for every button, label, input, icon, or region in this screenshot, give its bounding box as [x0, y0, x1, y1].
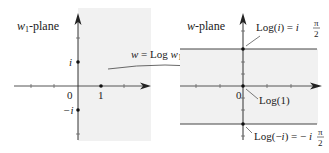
log-minus-i-label: Log(−i) = − i [254, 130, 312, 143]
w1-plane: w1-plane 0 1 i −i [14, 8, 151, 141]
log-i-frac-num: π [314, 18, 319, 28]
log-one-label: Log(1) [259, 94, 290, 107]
left-i-label: i [69, 56, 72, 68]
point-i [76, 60, 80, 64]
log-minus-i-frac-den: 2 [318, 138, 323, 148]
complex-log-diagram: w1-plane 0 1 i −i w = Log w1 [0, 0, 329, 153]
left-origin-label: 0 [67, 89, 73, 101]
left-shaded-region [78, 8, 151, 141]
point-minus-i [76, 108, 80, 112]
point-one [99, 84, 103, 88]
log-i-frac-den: 2 [314, 29, 319, 39]
left-minus-i-label: −i [63, 104, 73, 116]
point-log-one [241, 84, 245, 88]
left-plane-title: w1-plane [17, 19, 59, 34]
right-origin-label: 0 [236, 89, 242, 101]
log-minus-i-frac-num: π [318, 127, 323, 137]
leader-log-i [246, 36, 260, 46]
w-plane: w-plane 0 Log(i) = i π 2 Log(1) Log(−i) … [180, 13, 324, 148]
right-plane-title: w-plane [187, 19, 225, 33]
point-log-i [241, 47, 245, 51]
left-one-label: 1 [98, 89, 104, 101]
log-i-label: Log(i) = i [256, 21, 299, 34]
leader-log-minus-i [246, 127, 252, 133]
mapping-label: w = Log w1 [131, 48, 182, 62]
point-log-minus-i [241, 122, 245, 126]
